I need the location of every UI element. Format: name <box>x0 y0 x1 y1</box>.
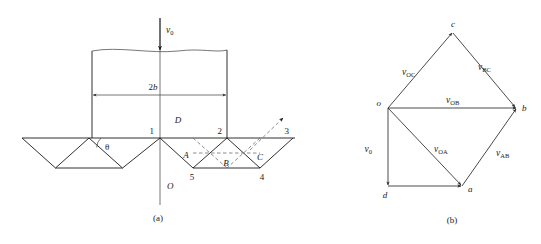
pole-label-c: c <box>451 19 455 29</box>
figure-root: v0 2b θ 1 2 <box>0 0 541 244</box>
material-flow-arrow <box>250 118 283 150</box>
region-label-B: B <box>223 158 229 168</box>
node-label-3: 3 <box>285 126 290 136</box>
vector-vAB <box>462 109 516 186</box>
pole-label-b: b <box>522 103 527 113</box>
vector-label-vBC: vBC <box>478 62 491 73</box>
vector-label-v0: v0 <box>365 144 372 155</box>
region-label-C: C <box>257 152 264 162</box>
origin-label-O: O <box>167 181 174 191</box>
panel-b-caption: (b) <box>447 215 458 225</box>
angle-label-theta: θ <box>105 142 109 152</box>
region-label-D: D <box>174 115 182 125</box>
dimension-label-2b: 2b <box>149 82 159 92</box>
panel-a-caption: (a) <box>153 213 163 223</box>
figure-svg: v0 2b θ 1 2 <box>0 0 541 244</box>
vector-label-vOB: vOB <box>446 95 460 106</box>
node-label-2: 2 <box>218 126 223 136</box>
v0-label: v0 <box>166 25 173 36</box>
panel-a: v0 2b θ 1 2 <box>22 18 295 223</box>
slipline-zigzag <box>22 138 293 168</box>
vector-label-vOC: vOC <box>402 67 415 78</box>
vector-vOA <box>388 108 461 185</box>
pole-label-d: d <box>383 190 388 200</box>
node-label-4: 4 <box>260 172 265 182</box>
node-label-1: 1 <box>150 126 155 136</box>
region-label-A: A <box>182 150 189 160</box>
panel-b: o a b c d vOC vBC vOB vOA vAB v0 (b) <box>365 19 527 225</box>
vector-vOC <box>388 33 452 108</box>
node-label-5: 5 <box>190 172 195 182</box>
vector-label-vAB: vAB <box>496 148 510 159</box>
vector-label-vOA: vOA <box>434 144 448 155</box>
indenter-wavy-top <box>92 49 227 51</box>
pole-label-a: a <box>468 184 473 194</box>
pole-label-o: o <box>377 98 382 108</box>
